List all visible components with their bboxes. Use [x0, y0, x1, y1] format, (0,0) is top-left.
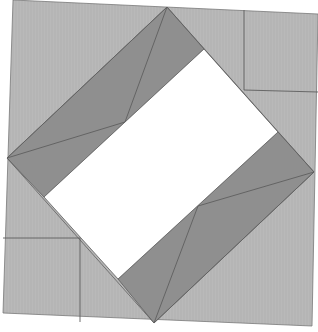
quilt-block-svg — [0, 0, 318, 332]
quilt-block-diagram: Square-in-a-square quilt block — [0, 0, 318, 332]
